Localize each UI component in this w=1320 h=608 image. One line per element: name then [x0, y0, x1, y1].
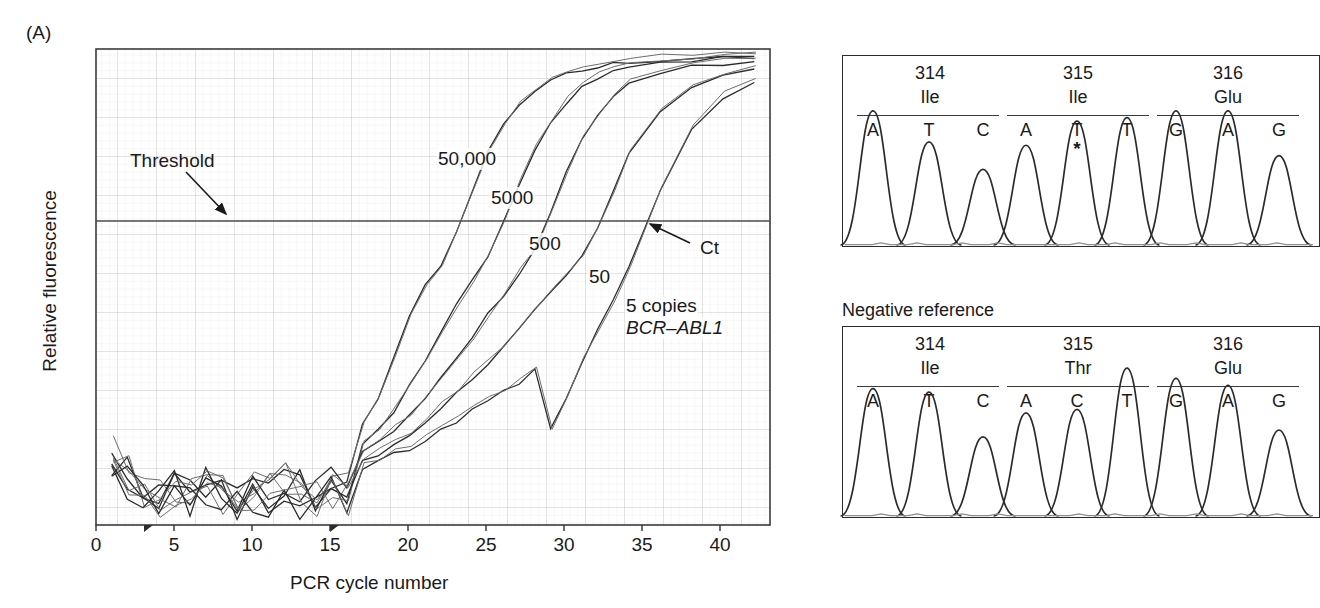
chromatogram-peak [1196, 385, 1261, 516]
chromatogram-peak [1045, 409, 1110, 516]
curve-label-5-copies: 5 copies [625, 295, 698, 317]
curve-label-500: 500 [528, 233, 562, 255]
plot-major-grid [96, 49, 770, 525]
chromatogram-peak [1144, 378, 1209, 516]
chromatogram-peak [897, 392, 962, 516]
chromatogram-peak [841, 389, 906, 516]
curve-label-50000: 50,000 [437, 148, 497, 170]
panel-a-amplification-plot: (A) Relative fluorescence PCR cycle numb… [0, 0, 800, 608]
chromatogram-baseline-noise [845, 514, 1313, 516]
x-axis-ticks [96, 525, 720, 531]
curve-label-5000: 5000 [490, 187, 534, 209]
curve-label-gene: BCR–ABL1 [625, 317, 724, 339]
panel-b-sequencing-chromatograms: (B) BCR–ABL1 T315I mutation 314 Ile 315 … [795, 0, 1320, 608]
chromatogram-peak [951, 437, 1016, 516]
ct-label: Ct [700, 237, 719, 259]
curve-label-50: 50 [588, 266, 611, 288]
chromatogram-peak [1247, 430, 1312, 516]
threshold-label: Threshold [130, 150, 215, 172]
reference-trace-canvas [795, 0, 1320, 608]
chromatogram-peak [1095, 368, 1160, 516]
